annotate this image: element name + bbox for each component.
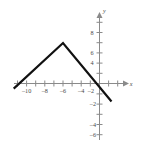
y-tick-label: 6 xyxy=(90,49,93,56)
x-tick-labels: –10 –8 –6 –4 –2 xyxy=(21,87,94,94)
y-tick-label: –4 xyxy=(89,121,96,128)
y-tick-label: –6 xyxy=(89,131,96,138)
x-axis xyxy=(14,81,129,87)
x-tick-label: –10 xyxy=(21,87,31,94)
y-tick-label: –2 xyxy=(89,100,96,107)
x-tick-label: –2 xyxy=(87,87,94,94)
x-tick-label: –8 xyxy=(41,87,48,94)
y-tick-label: 8 xyxy=(90,29,93,36)
y-tick-label: 4 xyxy=(90,59,93,66)
coordinate-plot: –10 –8 –6 –4 –2 8 6 4 –2 –4 –6 y x xyxy=(0,0,141,147)
x-axis-label: x xyxy=(129,80,133,87)
x-axis-arrow-icon xyxy=(123,81,129,87)
y-axis-label: y xyxy=(102,7,106,14)
graph-figure: –10 –8 –6 –4 –2 8 6 4 –2 –4 –6 y x xyxy=(0,0,141,147)
x-tick-label: –4 xyxy=(77,87,84,94)
x-tick-label: –6 xyxy=(59,87,66,94)
y-axis xyxy=(97,12,103,140)
y-axis-arrow-icon xyxy=(97,12,103,18)
